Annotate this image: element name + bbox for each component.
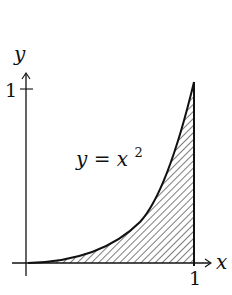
hatched-region [28, 82, 194, 263]
curve-label: y = x 2 [75, 145, 143, 171]
x-axis-label: x [216, 250, 227, 274]
x-tick-label: 1 [189, 267, 201, 289]
diagram-canvas: y 1 x 1 y = x 2 [0, 0, 232, 295]
y-tick-label: 1 [5, 79, 17, 101]
curve-label-base: y = x [75, 147, 128, 171]
curve-label-exponent: 2 [134, 145, 142, 160]
y-axis-label: y [13, 42, 26, 66]
